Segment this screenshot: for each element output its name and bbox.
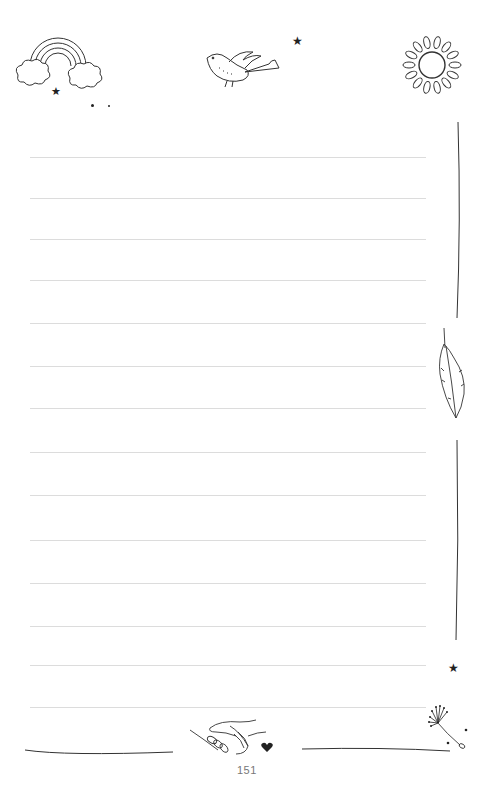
journal-page: ★ ★ ★ [0,0,494,793]
ruled-line [30,239,426,240]
ruled-line [30,626,426,627]
ruled-line [30,280,426,281]
dot-icon [108,105,110,107]
bird-icon [205,48,285,93]
ruled-line [30,540,426,541]
bottom-line-left [25,748,175,758]
ruled-line [30,157,426,158]
vertical-line-top [455,122,463,318]
dot-icon [91,104,94,107]
feather-icon [436,328,472,428]
star-icon: ★ [448,661,459,675]
star-icon: ★ [51,85,61,98]
vertical-line-bottom [455,440,463,640]
heart-icon [261,742,273,753]
ruled-line [30,495,426,496]
ruled-line [30,366,426,367]
dandelion-icon [428,705,473,750]
ruled-line [30,198,426,199]
ruled-line [30,583,426,584]
ruled-line [30,408,426,409]
ruled-line [30,452,426,453]
bottom-line-right [302,745,452,755]
page-number: 151 [237,764,257,776]
ruled-line [30,665,426,666]
ruled-line [30,323,426,324]
holding-hands-icon [190,718,280,760]
ruled-line [30,707,426,708]
sun-icon [400,32,464,98]
star-icon: ★ [292,34,303,48]
